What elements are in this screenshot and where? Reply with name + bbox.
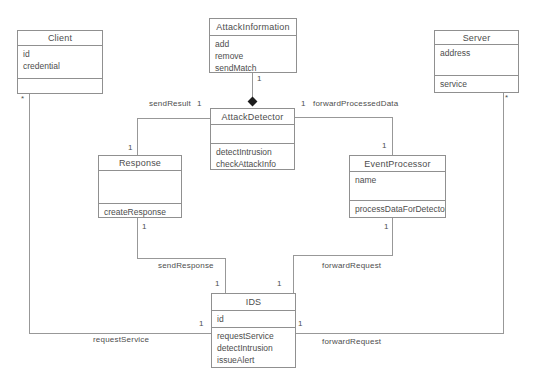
method: createResponse bbox=[104, 206, 179, 217]
attribute: address bbox=[440, 47, 516, 59]
method: requestService bbox=[217, 330, 293, 342]
class-response-methods: createResponse bbox=[99, 203, 181, 217]
sendresponse-line-h bbox=[137, 258, 226, 259]
multiplicity: 1 bbox=[301, 99, 306, 108]
multiplicity: 1 bbox=[142, 222, 147, 231]
class-server-attributes: address bbox=[435, 44, 518, 75]
class-attackdetector-attributes bbox=[211, 124, 294, 143]
class-ids-name: IDS bbox=[212, 294, 295, 310]
composition-line bbox=[252, 73, 253, 99]
requestservice-line-v bbox=[29, 93, 30, 333]
multiplicity: 1 bbox=[382, 141, 387, 150]
class-client-name: Client bbox=[18, 31, 102, 45]
class-server: Server address service bbox=[434, 30, 519, 93]
class-attackdetector: AttackDetector detectIntrusion checkAtta… bbox=[210, 108, 295, 170]
forwardprocesseddata-line-h bbox=[295, 117, 392, 118]
class-eventprocessor: EventProcessor name processDataForDetect… bbox=[349, 155, 446, 218]
association-label-forwardprocesseddata: forwardProcessedData bbox=[313, 99, 398, 108]
method: detectIntrusion bbox=[217, 342, 293, 354]
method: sendMatch bbox=[215, 62, 294, 72]
class-client: Client id credential bbox=[17, 30, 103, 94]
class-server-name: Server bbox=[435, 31, 518, 44]
multiplicity: 1 bbox=[298, 319, 303, 328]
class-attackinformation: AttackInformation add remove sendMatch bbox=[209, 18, 297, 73]
class-response-name: Response bbox=[99, 156, 181, 170]
forwardrequest1-line-h bbox=[293, 255, 393, 256]
uml-class-diagram: 1 sendResult 1 1 1 forwardProcessedData … bbox=[0, 0, 535, 388]
multiplicity: 1 bbox=[277, 279, 282, 288]
sendresult-line-v bbox=[137, 118, 138, 155]
method: remove bbox=[215, 50, 294, 62]
method: processDataForDetector bbox=[355, 203, 443, 215]
class-attackdetector-name: AttackDetector bbox=[211, 109, 294, 124]
class-eventprocessor-methods: processDataForDetector bbox=[350, 200, 445, 217]
class-eventprocessor-name: EventProcessor bbox=[350, 156, 445, 171]
attribute: name bbox=[355, 174, 443, 186]
attribute: id bbox=[217, 313, 293, 325]
method: issueAlert bbox=[217, 354, 293, 366]
method: detectIntrusion bbox=[216, 146, 292, 158]
association-label-requestservice: requestService bbox=[93, 335, 149, 344]
multiplicity: 1 bbox=[128, 143, 133, 152]
method: add bbox=[215, 38, 294, 50]
class-client-attributes: id credential bbox=[18, 45, 102, 78]
class-client-methods bbox=[18, 78, 102, 93]
sendresponse-line-v2 bbox=[225, 258, 226, 293]
class-response-attributes bbox=[99, 170, 181, 203]
forwardrequest1-line-v2 bbox=[293, 255, 294, 293]
composition-diamond-icon bbox=[248, 97, 258, 107]
multiplicity: 1 bbox=[257, 74, 262, 83]
association-label-sendresponse: sendResponse bbox=[158, 261, 214, 270]
multiplicity: * bbox=[21, 94, 24, 103]
multiplicity: 1 bbox=[384, 222, 389, 231]
method: service bbox=[440, 78, 516, 90]
multiplicity: * bbox=[505, 93, 508, 102]
class-ids-attributes: id bbox=[212, 310, 295, 327]
class-attackinformation-name: AttackInformation bbox=[210, 19, 296, 35]
class-attackinformation-methods: add remove sendMatch bbox=[210, 35, 296, 72]
forwardrequest2-line-h bbox=[296, 333, 504, 334]
multiplicity: 1 bbox=[197, 99, 202, 108]
association-label-sendresult: sendResult bbox=[149, 99, 191, 108]
class-attackdetector-methods: detectIntrusion checkAttackInfo bbox=[211, 143, 294, 169]
forwardrequest1-line-v1 bbox=[392, 218, 393, 255]
class-ids: IDS id requestService detectIntrusion is… bbox=[211, 293, 296, 368]
forwardprocesseddata-line-v bbox=[392, 117, 393, 155]
method: checkAttackInfo bbox=[216, 158, 292, 169]
class-response: Response createResponse bbox=[98, 155, 182, 218]
multiplicity: 1 bbox=[199, 319, 204, 328]
class-server-methods: service bbox=[435, 75, 518, 92]
sendresponse-line-v1 bbox=[137, 218, 138, 258]
attribute: id bbox=[23, 48, 100, 60]
requestservice-line-h bbox=[29, 333, 211, 334]
forwardrequest2-line-v bbox=[503, 93, 504, 333]
class-ids-methods: requestService detectIntrusion issueAler… bbox=[212, 327, 295, 367]
sendresult-line-h bbox=[137, 118, 210, 119]
association-label-forwardrequest-server: forwardRequest bbox=[322, 337, 381, 346]
class-eventprocessor-attributes: name bbox=[350, 171, 445, 200]
association-label-forwardrequest-processor: forwardRequest bbox=[322, 261, 381, 270]
multiplicity: 1 bbox=[215, 279, 220, 288]
attribute: credential bbox=[23, 60, 100, 72]
